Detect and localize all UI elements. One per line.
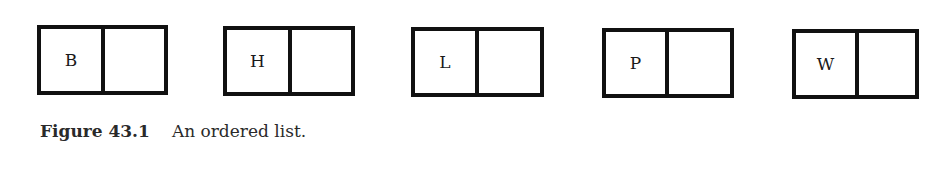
list-node: B — [37, 25, 168, 95]
list-node: P — [602, 28, 734, 98]
node-data-cell: P — [606, 32, 669, 94]
node-next-pointer-cell — [105, 29, 164, 91]
node-data-cell: H — [227, 30, 292, 92]
node-next-pointer-cell — [292, 30, 351, 92]
node-data-cell: B — [41, 29, 105, 91]
list-node: H — [223, 26, 355, 96]
figure-caption: Figure 43.1An ordered list. — [40, 121, 306, 141]
node-next-pointer-cell — [479, 31, 540, 93]
node-data-cell: W — [796, 33, 859, 95]
node-data-cell: L — [415, 31, 479, 93]
list-node: W — [792, 29, 919, 99]
figure-caption-text: An ordered list. — [172, 121, 306, 141]
node-next-pointer-cell — [859, 33, 915, 95]
list-node: L — [411, 27, 544, 97]
node-next-pointer-cell — [669, 32, 730, 94]
figure-number: Figure 43.1 — [40, 121, 150, 141]
